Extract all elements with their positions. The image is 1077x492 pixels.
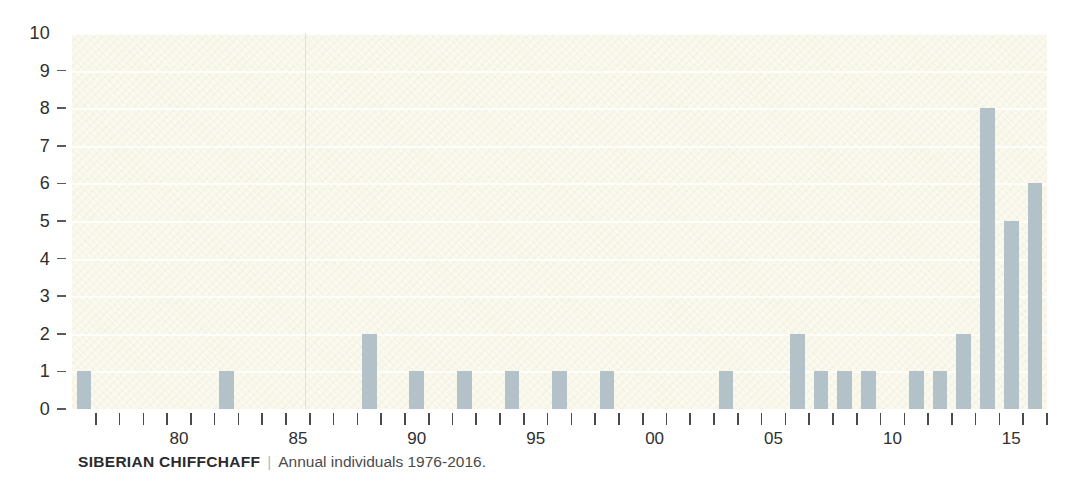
x-axis-tick-mark bbox=[689, 413, 691, 425]
x-axis-tick-label: 00 bbox=[645, 429, 664, 449]
x-axis-tick-mark bbox=[808, 413, 810, 425]
bar bbox=[505, 371, 520, 409]
bar bbox=[814, 371, 829, 409]
x-axis-tick-label: 95 bbox=[526, 429, 545, 449]
bar bbox=[956, 334, 971, 409]
x-axis-tick-mark bbox=[95, 413, 97, 425]
bar bbox=[837, 371, 852, 409]
bar bbox=[909, 371, 924, 409]
y-axis: 109876543210 bbox=[0, 0, 72, 492]
y-axis-tick-mark bbox=[57, 295, 66, 297]
chart-figure: 109876543210 8085909500051015 SIBERIAN C… bbox=[0, 0, 1077, 492]
y-axis-tick-mark bbox=[57, 371, 66, 373]
y-axis-tick-mark bbox=[57, 32, 66, 34]
bar bbox=[362, 334, 377, 409]
bar bbox=[409, 371, 424, 409]
y-axis-tick: 0 bbox=[40, 400, 72, 418]
caption-title: SIBERIAN CHIFFCHAFF bbox=[78, 453, 260, 470]
x-axis-tick-label: 05 bbox=[764, 429, 783, 449]
x-axis-tick-mark bbox=[428, 413, 430, 425]
y-axis-tick-label: 10 bbox=[30, 24, 50, 42]
y-axis-tick-label: 0 bbox=[40, 400, 50, 418]
x-axis-tick-mark bbox=[499, 413, 501, 425]
x-axis-tick-mark bbox=[904, 413, 906, 425]
y-axis-tick-label: 7 bbox=[40, 137, 50, 155]
x-axis-tick-mark bbox=[927, 413, 929, 425]
y-axis-tick-mark bbox=[57, 220, 66, 222]
x-axis-tick-mark bbox=[404, 413, 406, 425]
x-axis-tick-label: 10 bbox=[883, 429, 902, 449]
gridline bbox=[72, 108, 1047, 110]
x-axis-tick-mark bbox=[642, 413, 644, 425]
x-axis-tick-mark bbox=[452, 413, 454, 425]
y-axis-tick-label: 8 bbox=[40, 99, 50, 117]
plot-area bbox=[72, 33, 1047, 409]
y-axis-tick-mark bbox=[57, 333, 66, 335]
y-axis-tick-mark bbox=[57, 408, 66, 410]
y-axis-tick: 10 bbox=[30, 24, 72, 42]
x-axis-tick-mark bbox=[737, 413, 739, 425]
x-axis-tick-mark bbox=[832, 413, 834, 425]
x-axis-tick-mark bbox=[238, 413, 240, 425]
y-axis-tick-label: 6 bbox=[40, 174, 50, 192]
bar bbox=[933, 371, 948, 409]
y-axis-tick-label: 9 bbox=[40, 62, 50, 80]
x-axis-tick-mark bbox=[309, 413, 311, 425]
x-axis-tick-mark bbox=[761, 413, 763, 425]
bar bbox=[861, 371, 876, 409]
x-axis-tick-mark bbox=[261, 413, 263, 425]
y-axis-tick: 7 bbox=[40, 137, 72, 155]
y-axis-tick: 8 bbox=[40, 99, 72, 117]
y-axis-tick: 9 bbox=[40, 62, 72, 80]
y-axis-tick-mark bbox=[57, 183, 66, 185]
x-axis-tick-mark bbox=[357, 413, 359, 425]
x-axis-tick-mark bbox=[333, 413, 335, 425]
x-axis-tick-mark bbox=[1046, 413, 1048, 425]
y-axis-tick-label: 5 bbox=[40, 212, 50, 230]
bar bbox=[790, 334, 805, 409]
y-axis-tick-mark bbox=[57, 107, 66, 109]
y-axis-tick: 4 bbox=[40, 250, 72, 268]
x-axis-tick-mark bbox=[547, 413, 549, 425]
x-axis-tick-mark bbox=[190, 413, 192, 425]
y-axis-tick-label: 4 bbox=[40, 250, 50, 268]
vertical-gridline bbox=[305, 33, 306, 409]
x-axis-tick-label: 80 bbox=[170, 429, 189, 449]
x-axis-tick-mark bbox=[594, 413, 596, 425]
y-axis-tick: 5 bbox=[40, 212, 72, 230]
caption-subtitle: Annual individuals 1976-2016. bbox=[278, 453, 486, 470]
x-axis-tick-mark bbox=[475, 413, 477, 425]
gridline bbox=[72, 146, 1047, 148]
x-axis-tick-label: 85 bbox=[288, 429, 307, 449]
bar bbox=[457, 371, 472, 409]
bar bbox=[719, 371, 734, 409]
x-axis-tick-mark bbox=[951, 413, 953, 425]
x-axis-tick-mark bbox=[143, 413, 145, 425]
caption-separator: | bbox=[267, 453, 271, 470]
x-axis-tick-mark bbox=[785, 413, 787, 425]
y-axis-tick-mark bbox=[57, 145, 66, 147]
bar bbox=[980, 108, 995, 409]
x-axis-tick-mark bbox=[166, 413, 168, 425]
gridline bbox=[72, 259, 1047, 261]
gridline bbox=[72, 296, 1047, 298]
x-axis: 8085909500051015 bbox=[72, 409, 1047, 449]
y-axis-tick: 6 bbox=[40, 174, 72, 192]
x-axis-tick-mark bbox=[214, 413, 216, 425]
y-axis-tick-mark bbox=[57, 258, 66, 260]
x-axis-tick-mark bbox=[380, 413, 382, 425]
x-axis-tick-mark bbox=[856, 413, 858, 425]
x-axis-tick-mark bbox=[1022, 413, 1024, 425]
x-axis-tick-mark bbox=[880, 413, 882, 425]
x-axis-tick-mark bbox=[713, 413, 715, 425]
x-axis-tick-label: 15 bbox=[1002, 429, 1021, 449]
gridline bbox=[72, 71, 1047, 73]
y-axis-tick: 2 bbox=[40, 325, 72, 343]
x-axis-tick-mark bbox=[119, 413, 121, 425]
y-axis-tick-label: 1 bbox=[40, 362, 50, 380]
gridline bbox=[72, 183, 1047, 185]
gridline bbox=[72, 33, 1047, 35]
y-axis-tick-label: 3 bbox=[40, 287, 50, 305]
gridline bbox=[72, 221, 1047, 223]
bar bbox=[1004, 221, 1019, 409]
